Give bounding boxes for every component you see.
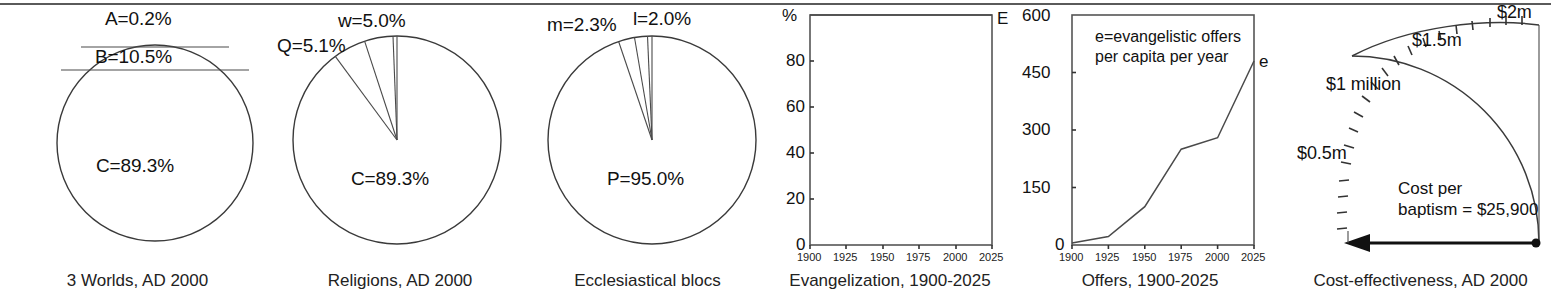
gauge-label-1-million: $1 million: [1326, 74, 1401, 95]
series-line-e: [1072, 61, 1254, 243]
gauge-label-2m: $2m: [1497, 2, 1532, 23]
panel-evangelization: % 80 60 40 20 0 E 1900 1925 1950 1975 20…: [770, 0, 1010, 305]
label-slice-m: m=2.3%: [547, 14, 617, 36]
xtick-label-2000: 2000: [943, 251, 967, 263]
xtick-label-2025: 2025: [1241, 251, 1265, 263]
label-slice-q: Q=5.1%: [277, 35, 346, 57]
ytick-label-40: 40: [786, 143, 805, 163]
ytick-label-450: 450: [1022, 63, 1050, 83]
gauge-pivot-dot: [1532, 239, 1541, 248]
caption-three-worlds: 3 Worlds, AD 2000: [0, 271, 275, 291]
offers-note-line2: per capita per year: [1095, 48, 1228, 65]
xtick-label-1950: 1950: [870, 251, 894, 263]
label-slice-c: C=89.3%: [351, 168, 429, 190]
ecclesiastical-pie: [525, 0, 770, 270]
panel-three-worlds: A=0.2% B=10.5% C=89.3% 3 Worlds, AD 2000: [0, 0, 275, 305]
pie-radius-w: [365, 41, 397, 140]
cost-note-line1: Cost per: [1398, 179, 1462, 198]
xtick-label-2000: 2000: [1205, 251, 1229, 263]
caption-ecclesiastical-blocs: Ecclesiastical blocs: [525, 271, 770, 291]
plot-frame: [810, 15, 992, 245]
evangelization-plot: [770, 0, 1010, 270]
xtick-label-1900: 1900: [797, 251, 821, 263]
figure-strip: A=0.2% B=10.5% C=89.3% 3 Worlds, AD 2000…: [0, 0, 1551, 305]
three-worlds-diagram: [0, 0, 275, 270]
caption-religions: Religions, AD 2000: [275, 271, 525, 291]
pie-radius-sliver: [393, 36, 397, 140]
panel-ecclesiastical-blocs: m=2.3% l=2.0% P=95.0% Ecclesiastical blo…: [525, 0, 770, 305]
label-segment-c: C=89.3%: [96, 155, 174, 177]
ytick-label-20: 20: [786, 189, 805, 209]
xtick-label-1975: 1975: [906, 251, 930, 263]
offers-note-line1: e=evangelistic offers: [1095, 28, 1241, 45]
gauge-label-1-5m: $1.5m: [1412, 30, 1462, 51]
pie-radius-q: [335, 56, 397, 140]
panel-religions: w=5.0% Q=5.1% C=89.3% Religions, AD 2000: [275, 0, 525, 305]
ytick-label-60: 60: [786, 97, 805, 117]
world-circle: [57, 45, 253, 241]
label-slice-l: l=2.0%: [633, 8, 691, 30]
label-segment-b: B=10.5%: [95, 46, 172, 68]
caption-evangelization: Evangelization, 1900-2025: [770, 271, 1010, 291]
ytick-label-300: 300: [1022, 120, 1050, 140]
xtick-label-1925: 1925: [833, 251, 857, 263]
caption-offers: Offers, 1900-2025: [1010, 271, 1290, 291]
panel-cost-effectiveness: $2m $1.5m $1 million $0.5m Cost per bapt…: [1290, 0, 1551, 305]
xtick-label-1925: 1925: [1095, 251, 1119, 263]
xtick-label-2025: 2025: [979, 251, 1003, 263]
caption-cost-effectiveness: Cost-effectiveness, AD 2000: [1290, 271, 1551, 291]
series-label-e: e: [1259, 52, 1268, 72]
cost-note-line2: baptism = $25,900: [1398, 200, 1538, 219]
label-slice-w: w=5.0%: [338, 10, 406, 32]
label-slice-p: P=95.0%: [607, 168, 684, 190]
offers-note: e=evangelistic offers per capita per yea…: [1095, 27, 1241, 67]
xtick-label-1950: 1950: [1132, 251, 1156, 263]
panel-offers: 600 450 300 150 0 e e=evangelistic offer…: [1010, 0, 1290, 305]
ytick-label-80: 80: [786, 51, 805, 71]
y-axis-percent-symbol: %: [782, 6, 797, 26]
xtick-label-1975: 1975: [1168, 251, 1192, 263]
pie-radius-m: [619, 42, 652, 140]
xtick-label-1900: 1900: [1059, 251, 1083, 263]
ytick-label-600: 600: [1022, 6, 1050, 26]
ytick-label-150: 150: [1022, 178, 1050, 198]
series-label-e: E: [997, 9, 1008, 29]
gauge-label-0-5m: $0.5m: [1297, 143, 1347, 164]
cost-per-baptism-note: Cost per baptism = $25,900: [1398, 178, 1538, 221]
label-segment-a: A=0.2%: [105, 8, 171, 30]
